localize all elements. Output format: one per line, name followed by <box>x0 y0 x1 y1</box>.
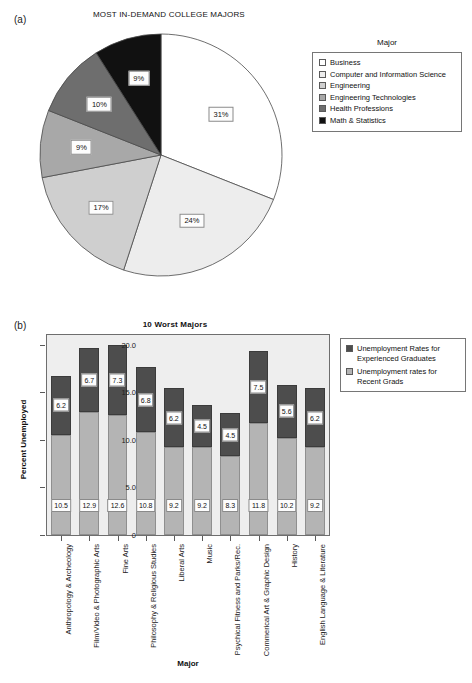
x-axis-category-label: Film/Video & Photographic Arts <box>92 544 101 648</box>
y-axis-tick-label: 0 <box>76 531 136 540</box>
pie-slice-label: 9% <box>128 71 149 86</box>
x-axis-tick-mark <box>259 536 260 541</box>
x-axis-tick-mark <box>61 536 62 541</box>
pie-slice-label: 24% <box>179 213 204 228</box>
pie-legend-item[interactable]: Engineering <box>319 81 455 90</box>
bar-column[interactable]: 7.511.8 <box>249 351 269 535</box>
panel-b-bar-chart: (b) 10 Worst Majors 6.210.56.712.97.312.… <box>0 312 472 683</box>
pie-slice-label: 17% <box>89 201 114 216</box>
pie-legend-item-label: Engineering <box>330 81 370 90</box>
bar-legend-item-label: Unemployment Rates for Experienced Gradu… <box>357 344 460 363</box>
bar-column[interactable]: 6.210.5 <box>51 376 71 535</box>
bar-legend-item-label: Unemployment rates for Recent Grads <box>357 367 460 386</box>
bar-column[interactable]: 4.59.2 <box>192 405 212 535</box>
bar-segment-value-label: 6.8 <box>138 393 154 406</box>
pie-legend-item[interactable]: Computer and Information Science <box>319 70 455 79</box>
x-axis-category-label: English Language & Literature <box>318 544 327 645</box>
bar-segment-value-label: 6.2 <box>53 399 69 412</box>
legend-swatch-icon <box>319 82 326 89</box>
bar-segment-recent[interactable]: 10.8 <box>136 432 156 535</box>
bar-segment-experienced[interactable]: 7.5 <box>249 351 269 422</box>
y-axis-tick-mark <box>40 487 45 488</box>
bar-segment-experienced[interactable]: 6.8 <box>136 367 156 432</box>
x-axis-tick-mark <box>315 536 316 541</box>
legend-swatch-icon <box>319 71 326 78</box>
bar-segment-recent[interactable]: 10.2 <box>277 438 297 535</box>
bar-segment-value-label: 8.3 <box>222 499 238 512</box>
x-axis-title: Major <box>46 659 330 668</box>
bar-segment-recent[interactable]: 9.2 <box>192 447 212 535</box>
pie-legend-item[interactable]: Math & Statistics <box>319 116 455 125</box>
pie-legend-item[interactable]: Engineering Technologies <box>319 93 455 102</box>
bar-segment-value-label: 7.3 <box>110 374 126 387</box>
panel-a-pie-chart: (a) MOST IN-DEMAND COLLEGE MAJORS 31%24%… <box>0 0 472 312</box>
legend-swatch-icon <box>319 94 326 101</box>
legend-swatch-icon <box>319 105 326 112</box>
bar-segment-experienced[interactable]: 7.3 <box>108 345 128 415</box>
bar-chart-title: 10 Worst Majors <box>0 320 350 329</box>
bar-segment-value-label: 6.7 <box>81 374 97 387</box>
x-axis-tick-mark <box>230 536 231 541</box>
y-axis-tick-label: 15.0 <box>76 388 136 397</box>
bar-segment-experienced[interactable]: 6.7 <box>79 348 99 412</box>
pie-legend-item-label: Business <box>330 58 360 67</box>
x-axis-tick-mark <box>202 536 203 541</box>
bar-segment-recent[interactable]: 9.2 <box>305 447 325 535</box>
y-axis-tick-mark <box>40 535 45 536</box>
bar-segment-experienced[interactable]: 6.2 <box>51 376 71 435</box>
bar-segment-value-label: 9.2 <box>307 499 323 512</box>
bar-segment-recent[interactable]: 9.2 <box>164 447 184 535</box>
bar-legend-item[interactable]: Unemployment rates for Recent Grads <box>346 367 460 386</box>
pie-chart-graphic: 31%24%17%9%10%9% <box>38 32 284 278</box>
y-axis-tick-mark <box>40 345 45 346</box>
bar-segment-value-label: 9.2 <box>166 499 182 512</box>
legend-swatch-icon <box>346 368 353 375</box>
pie-legend-item-label: Computer and Information Science <box>330 70 446 79</box>
pie-legend: BusinessComputer and Information Science… <box>312 52 462 132</box>
x-axis-tick-mark <box>146 536 147 541</box>
y-axis-tick-label: 20.0 <box>76 340 136 349</box>
bar-segment-experienced[interactable]: 6.2 <box>305 388 325 447</box>
pie-slice-label: 10% <box>87 97 112 112</box>
x-axis-tick-mark <box>118 536 119 541</box>
bar-segment-recent[interactable]: 12.9 <box>79 412 99 535</box>
legend-swatch-icon <box>319 117 326 124</box>
bar-segment-value-label: 4.5 <box>222 428 238 441</box>
bar-column[interactable]: 6.29.2 <box>164 388 184 535</box>
pie-legend-item[interactable]: Health Professions <box>319 104 455 113</box>
x-axis-category-label: Music <box>205 544 214 564</box>
legend-swatch-icon <box>319 59 326 66</box>
bar-column[interactable]: 6.29.2 <box>305 388 325 535</box>
bar-segment-value-label: 10.2 <box>277 499 297 512</box>
bar-segment-experienced[interactable]: 6.2 <box>164 388 184 447</box>
legend-swatch-icon <box>346 345 353 352</box>
bar-segment-recent[interactable]: 12.6 <box>108 415 128 535</box>
pie-legend-item-label: Engineering Technologies <box>330 93 416 102</box>
pie-legend-item-label: Health Professions <box>330 104 393 113</box>
y-axis-tick-mark <box>40 392 45 393</box>
bar-segment-value-label: 6.2 <box>166 411 182 424</box>
bar-segment-value-label: 10.5 <box>51 499 71 512</box>
pie-legend-title: Major <box>312 38 462 47</box>
x-axis-category-label: Anthropology & Archeology <box>64 544 73 634</box>
bar-segment-experienced[interactable]: 4.5 <box>192 405 212 448</box>
x-axis-category-label: Commerical Art & Graphic Design <box>262 544 271 656</box>
pie-slice-label: 31% <box>209 107 234 122</box>
x-axis-category-label: Psychical Fitness and Parks/Rec. <box>233 544 242 655</box>
bar-column[interactable]: 4.58.3 <box>220 413 240 535</box>
x-axis-tick-mark <box>174 536 175 541</box>
bar-legend-item[interactable]: Unemployment Rates for Experienced Gradu… <box>346 344 460 363</box>
pie-legend-item-label: Math & Statistics <box>330 116 386 125</box>
pie-legend-item[interactable]: Business <box>319 58 455 67</box>
y-axis-tick-mark <box>40 440 45 441</box>
pie-slice-label: 9% <box>71 140 92 155</box>
bar-segment-recent[interactable]: 8.3 <box>220 456 240 535</box>
bar-segment-experienced[interactable]: 5.6 <box>277 385 297 438</box>
bar-column[interactable]: 6.810.8 <box>136 367 156 535</box>
bar-segment-experienced[interactable]: 4.5 <box>220 413 240 456</box>
bar-column[interactable]: 5.610.2 <box>277 385 297 535</box>
x-axis-category-label: History <box>290 544 299 567</box>
bar-segment-value-label: 10.8 <box>136 499 156 512</box>
bar-segment-recent[interactable]: 10.5 <box>51 435 71 535</box>
bar-segment-recent[interactable]: 11.8 <box>249 423 269 535</box>
